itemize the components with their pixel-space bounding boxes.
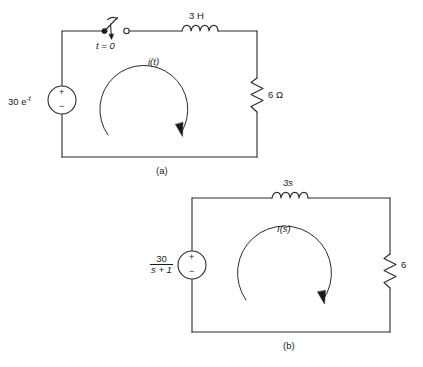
inductor-b-label: 3s	[283, 178, 293, 188]
circuit-a	[48, 17, 263, 157]
source-a-minus: −	[59, 102, 64, 111]
source-b-denominator: s + 1	[150, 264, 173, 275]
resistor-b-label: 6	[401, 260, 406, 270]
circuit-svg	[0, 0, 423, 367]
resistor-a-label: 6 Ω	[268, 90, 283, 100]
circuit-b	[178, 192, 396, 332]
source-a-value: 30 e	[8, 96, 27, 107]
source-a-label: 30 e-t	[8, 95, 31, 107]
caption-b: (b)	[283, 341, 295, 351]
inductor-a-label: 3 H	[189, 11, 204, 21]
source-a-exponent: -t	[27, 95, 31, 102]
current-a-label: i(t)	[148, 57, 159, 67]
inductor-b-coils	[272, 192, 308, 198]
source-b-plus: +	[189, 253, 194, 262]
current-loop-b-arrowhead	[318, 291, 326, 305]
source-b-numerator: 30	[150, 254, 173, 264]
inductor-b-value: 3s	[283, 177, 293, 188]
circuit-figure: 30 e-t + − t = 0 3 H 6 Ω i(t) (a) 30 s +…	[0, 0, 423, 367]
caption-a: (a)	[156, 166, 168, 176]
source-b-minus: −	[189, 267, 194, 276]
resistor-b-zigzag	[384, 254, 396, 288]
switch-a-label: t = 0	[96, 41, 115, 51]
current-loop-a-arc	[100, 65, 188, 135]
current-loop-b-arc	[237, 226, 331, 300]
current-loop-a-arrowhead	[176, 123, 184, 137]
switch-a-action-arrow-head	[109, 34, 114, 39]
source-a-plus: +	[59, 88, 64, 97]
source-b-label: 30 s + 1	[150, 254, 173, 276]
inductor-a-coils	[182, 25, 218, 31]
resistor-a-zigzag	[251, 78, 263, 112]
switch-a-open-terminal	[124, 28, 129, 33]
current-b-label: I(s)	[277, 224, 291, 234]
